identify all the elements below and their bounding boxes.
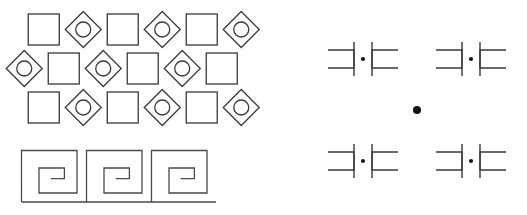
pattern-plate [0, 0, 527, 215]
module-center-dot [361, 159, 365, 163]
module-center-dot [469, 159, 473, 163]
center-dot [413, 106, 421, 114]
canvas-background [0, 0, 527, 215]
module-center-dot [361, 57, 365, 61]
module-center-dot [469, 57, 473, 61]
pattern-canvas [0, 0, 527, 215]
